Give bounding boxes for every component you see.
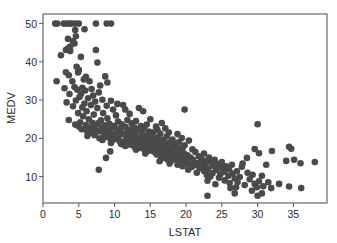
data-point [94,59,101,66]
data-point [122,143,129,150]
data-point [268,185,275,192]
y-tick-label: 20 [25,132,37,144]
data-point [96,166,103,173]
data-point [66,117,73,124]
y-axis-title: MEDV [5,91,17,123]
data-point [108,98,115,105]
data-point [96,89,103,96]
data-point [312,159,319,166]
data-point [100,110,107,117]
x-axis-title: LSTAT [169,226,202,238]
data-point [147,116,154,123]
data-point [75,69,82,76]
data-point [181,106,188,113]
data-point [194,170,201,177]
data-point [216,174,223,181]
scatter-chart: 05101520253035 1020304050 LSTAT MEDV [0,0,337,243]
data-point [61,85,68,92]
data-point [80,113,87,120]
data-point [58,52,65,59]
data-point [67,48,74,55]
data-point [66,91,73,98]
data-point [249,188,256,195]
data-point [102,73,109,80]
data-point [156,158,163,165]
data-point [99,96,106,103]
data-point [91,111,98,118]
data-point [239,160,246,167]
data-point [108,140,115,147]
data-point [204,192,211,199]
data-point [110,106,117,113]
data-point [86,78,93,85]
data-point [291,157,298,164]
data-point [70,103,77,110]
x-tick-label: 35 [288,208,300,220]
data-point [298,185,305,192]
data-point [256,150,263,157]
x-tick-label: 10 [109,208,121,220]
y-tick-label: 10 [25,171,37,183]
x-tick-label: 20 [180,208,192,220]
x-tick-label: 5 [76,208,82,220]
data-point [107,148,114,155]
data-point [263,161,270,168]
data-point [78,54,85,61]
data-point [227,185,234,192]
data-point [166,160,173,167]
data-point [54,20,61,27]
data-point [185,166,192,173]
data-point [73,97,80,104]
x-tick-label: 25 [216,208,228,220]
x-tick-label: 0 [40,208,46,220]
data-point [93,20,100,27]
data-point [76,20,83,27]
data-point [104,79,111,86]
data-point [142,150,149,157]
data-point [93,47,100,54]
data-point [99,137,106,144]
data-point [297,160,304,167]
data-point [260,183,267,190]
data-point [244,155,251,162]
data-point [269,148,276,155]
data-point [88,102,95,109]
data-point [254,121,261,128]
x-tick-label: 30 [252,208,264,220]
data-point [283,158,290,165]
y-tick-label: 30 [25,94,37,106]
data-point [179,163,186,170]
data-point [81,26,88,33]
data-point [246,176,253,183]
data-point [72,27,79,34]
data-point [113,112,120,119]
data-point [288,145,295,152]
data-point [103,155,110,162]
x-axis: 05101520253035 [40,203,299,220]
data-point [84,133,91,140]
data-point [231,190,238,197]
data-point [94,105,101,112]
data-point [63,99,70,106]
data-point [103,103,110,110]
data-point [133,147,140,154]
data-point [286,183,293,190]
y-axis: 1020304050 [25,18,43,183]
data-point [254,192,261,199]
x-tick-label: 15 [144,208,156,220]
data-point [159,120,166,127]
data-point [233,184,240,191]
data-point [276,181,283,188]
data-point [97,82,104,89]
data-point [204,178,211,185]
y-tick-label: 40 [25,56,37,68]
data-point [53,78,60,85]
data-point [81,76,88,83]
data-point [241,182,248,189]
data-point [108,20,115,27]
data-point [88,86,95,93]
data-point [126,111,133,118]
data-point [140,108,147,115]
data-point [66,72,73,79]
y-tick-label: 50 [25,18,37,30]
